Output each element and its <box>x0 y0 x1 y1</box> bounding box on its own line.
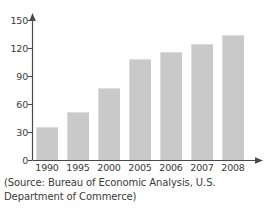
x-axis-tick-label: 1990 <box>35 162 58 173</box>
bar-chart-figure: 0306090120150 19901995200020052006200720… <box>0 0 272 212</box>
y-axis-tick-label: 60 <box>16 99 28 110</box>
bar <box>222 35 244 160</box>
y-axis-tick-label: 120 <box>10 43 28 54</box>
y-axis-tick-label: 150 <box>10 15 28 26</box>
bar-column <box>36 127 58 160</box>
x-axis-tick-label: 2008 <box>221 162 244 173</box>
bar <box>98 88 120 160</box>
x-axis-tick-label: 2006 <box>159 162 182 173</box>
bar <box>191 44 213 160</box>
bar <box>129 59 151 160</box>
y-axis-tick-label: 0 <box>22 155 28 166</box>
y-axis-labels: 0306090120150 <box>0 0 28 175</box>
bar-column <box>160 52 182 160</box>
bar <box>160 52 182 160</box>
bar-column <box>129 59 151 160</box>
bar-column <box>191 44 213 160</box>
source-caption: (Source: Bureau of Economic Analysis, U.… <box>4 176 268 204</box>
bar-column <box>222 35 244 160</box>
x-axis-tick-label: 2005 <box>128 162 151 173</box>
y-axis-tick-label: 90 <box>16 71 28 82</box>
plot-area: 0306090120150 19901995200020052006200720… <box>0 0 272 175</box>
x-axis-tick-label: 2000 <box>97 162 120 173</box>
bar <box>36 127 58 160</box>
bars-group: 1990199520002005200620072008 <box>34 0 254 175</box>
bar <box>67 112 89 160</box>
bar-column <box>67 112 89 160</box>
y-tick-marks <box>28 21 33 161</box>
x-axis-arrow <box>255 157 263 164</box>
x-axis-tick-label: 2007 <box>190 162 213 173</box>
y-axis-tick-label: 30 <box>16 127 28 138</box>
x-axis-tick-label: 1995 <box>66 162 89 173</box>
bar-column <box>98 88 120 160</box>
